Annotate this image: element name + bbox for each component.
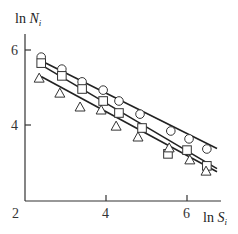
triangle-marker [133, 132, 143, 141]
circle-marker [136, 110, 145, 119]
triangle-marker [55, 88, 65, 97]
square-marker [138, 124, 147, 133]
x-axis-label: ln Si [203, 210, 227, 227]
x-tick-label-6: 6 [183, 206, 190, 221]
circle-marker [167, 127, 176, 136]
square-marker [115, 109, 124, 118]
y-tick-label-6: 6 [11, 43, 18, 58]
y-axis-label: ln Ni [15, 11, 42, 28]
square-marker [78, 85, 87, 94]
plot-area [34, 53, 217, 175]
triangle-marker [111, 121, 121, 130]
x-tick-label-4: 4 [102, 206, 109, 221]
x-tick-label-2: 2 [12, 206, 19, 221]
square-marker [99, 97, 108, 106]
square-marker [58, 72, 67, 81]
circle-marker [115, 97, 124, 106]
y-tick-label-4: 4 [11, 118, 18, 133]
square-marker [37, 59, 46, 68]
square-marker [183, 146, 192, 155]
circle-marker [203, 145, 212, 154]
circle-marker [99, 86, 108, 95]
circle-marker [185, 135, 194, 144]
scatter-chart: 6 4 2 4 6 ln Ni ln Si [0, 0, 238, 234]
triangle-marker [75, 102, 85, 111]
